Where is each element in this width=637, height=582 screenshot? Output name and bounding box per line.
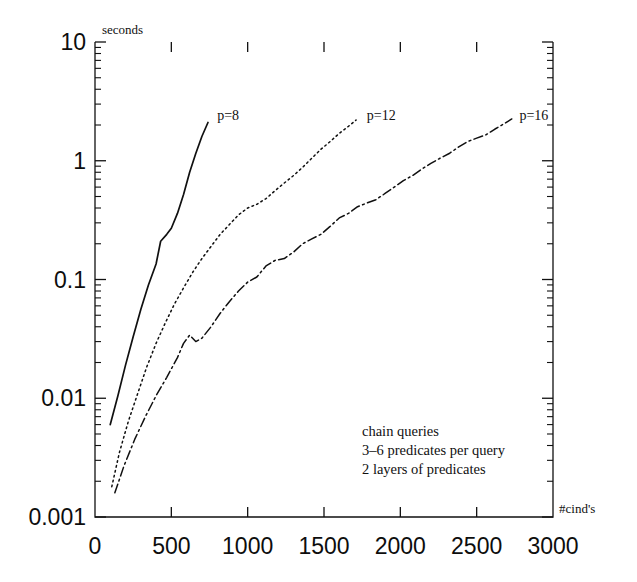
y-tick-label: 0.01 [41,385,86,411]
x-tick-label: 1500 [298,533,349,559]
y-tick-label: 0.001 [28,504,86,530]
x-axis-ticks-top [171,42,476,52]
line-chart-svg: 0.0010.010.1110 050010001500200025003000… [0,0,637,582]
annotation-line: 3–6 predicates per query [362,442,506,458]
series-curve-p16 [115,119,512,493]
y-tick-label: 10 [60,29,86,55]
y-tick-label: 0.1 [54,267,86,293]
chart-annotations: chain queries3–6 predicates per query2 l… [362,423,506,477]
x-tick-label: 500 [152,533,190,559]
x-tick-label: 2000 [375,533,426,559]
y-axis-ticks [95,42,106,517]
x-axis-title: #cind's [559,501,595,516]
annotation-line: 2 layers of predicates [362,461,486,477]
series-curve-p8 [110,122,208,424]
x-axis-tick-labels: 050010001500200025003000 [89,533,579,559]
series-curve-p12 [112,120,356,487]
series-label-p16: p=16 [519,108,548,123]
x-tick-label: 1000 [222,533,273,559]
annotation-line: chain queries [362,423,439,439]
x-axis-ticks [171,507,476,517]
series-label-p12: p=12 [367,108,396,123]
y-axis-title: seconds [102,22,143,37]
series-labels: p=8p=12p=16 [217,108,548,123]
series-label-p8: p=8 [217,108,239,123]
chart-figure: 0.0010.010.1110 050010001500200025003000… [0,0,637,582]
x-tick-label: 2500 [451,533,502,559]
y-axis-tick-labels: 0.0010.010.1110 [28,29,86,530]
y-tick-label: 1 [73,148,86,174]
x-tick-label: 0 [89,533,102,559]
series-curves [110,119,512,493]
x-tick-label: 3000 [527,533,578,559]
